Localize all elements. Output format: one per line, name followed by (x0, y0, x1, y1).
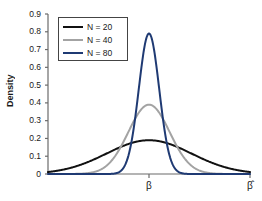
legend-item-n40: N = 40 (63, 34, 123, 46)
density-chart: Density 0.90.80.70.60.50.40.30.20.10 ββ̂… (0, 0, 262, 201)
legend-swatch-n40 (63, 39, 83, 41)
y-tick-label: 0.7 (17, 45, 41, 54)
x-tick-beta: β (137, 180, 161, 191)
y-tick-label: 0.6 (17, 63, 41, 72)
legend-swatch-n80 (63, 52, 83, 54)
y-tick-label: 0.3 (17, 116, 41, 125)
y-tick-label: 0.4 (17, 98, 41, 107)
legend-item-n80: N = 80 (63, 47, 123, 59)
y-tick-label: 0.2 (17, 134, 41, 143)
legend-label-n20: N = 20 (87, 22, 112, 32)
legend-label-n80: N = 80 (87, 48, 112, 58)
y-tick-label: 0 (17, 170, 41, 179)
y-tick-label: 0.1 (17, 152, 41, 161)
legend: N = 20 N = 40 N = 80 (58, 17, 128, 61)
y-tick-label: 0.8 (17, 27, 41, 36)
y-tick-label: 0.5 (17, 81, 41, 90)
legend-swatch-n20 (63, 26, 83, 28)
legend-item-n20: N = 20 (63, 21, 123, 33)
density-curve-20 (48, 140, 250, 172)
x-tick-beta-hat: β̂ (238, 180, 262, 191)
legend-label-n40: N = 40 (87, 35, 112, 45)
y-axis-label: Density (2, 56, 18, 126)
y-tick-label: 0.9 (17, 10, 41, 19)
